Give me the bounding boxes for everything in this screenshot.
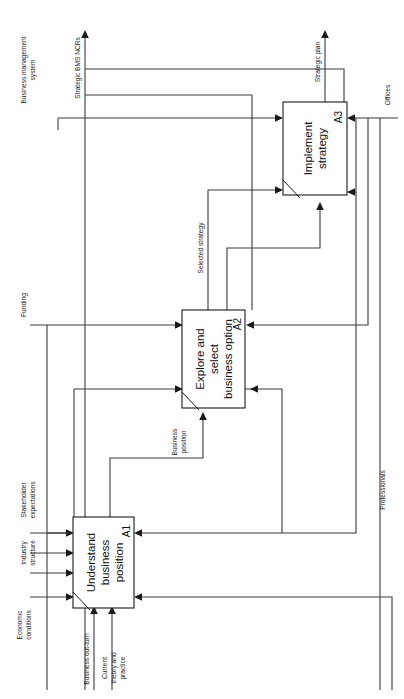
label-business-management-system-line2: system: [29, 59, 37, 80]
arrowhead-bms-to-a3: [275, 114, 283, 122]
process-box-a2[interactable]: Explore and select business option A2: [182, 310, 245, 410]
label-strategic-bms-ncrs: Strategic BMS NCRs: [74, 37, 82, 99]
label-professionals: Professionals: [379, 470, 386, 510]
box-a3-title-line1: Implement: [302, 121, 314, 175]
label-business-out-turn: Business out-turn: [83, 633, 90, 685]
label-current-theory-line2: theory and: [110, 652, 118, 683]
label-selected-strategy: Selected strategy: [197, 222, 205, 274]
label-funding: Funding: [20, 293, 28, 317]
label-business-position-line2: position: [180, 430, 188, 453]
box-a1-title-line3: position: [113, 543, 125, 583]
line-a3-ncr-feedback: [85, 69, 344, 102]
label-stakeholder-expectations-line2: expectations: [29, 481, 37, 519]
label-industry-structure-line1: Industry: [20, 541, 28, 565]
line-offices-to-a1: [139, 192, 356, 533]
idef0-diagram: Implement strategy A3 Explore and select…: [0, 0, 404, 699]
label-strategic-plan: Strategic plan: [314, 42, 322, 83]
box-a2-title-line2: select: [208, 343, 220, 374]
line-a2-feedback-to-a1: [245, 389, 282, 533]
line-business-position: [110, 420, 203, 517]
process-box-a1[interactable]: Understand business position A1: [73, 517, 134, 610]
box-a3-id: A3: [333, 110, 344, 123]
box-a3-title-line2: strategy: [316, 128, 328, 169]
line-offices-branch-a3-lower: [352, 118, 356, 192]
arrowhead-offices-to-a2: [246, 321, 254, 329]
arrowhead-a2-feedback: [250, 385, 258, 393]
box-a1-id: A1: [121, 524, 132, 537]
arrowhead-business-position: [199, 412, 207, 420]
line-a2-to-a3-mechanism: [227, 210, 320, 310]
label-stakeholder-expectations-line1: Stakeholder: [20, 482, 27, 518]
box-a1-title-line1: Understand: [85, 533, 97, 592]
label-business-position-line1: Business: [171, 428, 178, 455]
box-a2-id: A2: [232, 317, 243, 330]
label-offices: Offices: [384, 84, 391, 105]
line-professionals-to-a1: [139, 597, 392, 690]
label-economic-conditions-line1: Economic: [16, 610, 23, 640]
label-current-theory-line3: practice: [119, 656, 127, 679]
label-current-theory-line1: Current: [101, 657, 108, 679]
arrowhead-professionals-to-a1: [134, 593, 142, 601]
diagram-canvas: Implement strategy A3 Explore and select…: [0, 0, 404, 699]
arrowhead-strategic-bms-ncrs: [81, 30, 89, 38]
arrowhead-offices-to-a3: [347, 114, 355, 122]
process-box-a3[interactable]: Implement strategy A3: [283, 102, 347, 198]
line-selected-strategy: [208, 190, 278, 310]
box-a1-title-line2: business: [99, 540, 111, 586]
label-business-management-system-line1: Business management: [20, 36, 28, 103]
arrowhead-a2-a3-mechanism: [316, 202, 324, 210]
arrowhead-selected-strategy: [275, 186, 283, 194]
label-economic-conditions-line2: conditions: [25, 609, 32, 639]
label-industry-structure-line2: structure: [29, 540, 36, 566]
arrowhead-offices-to-a1: [134, 529, 142, 537]
box-a2-title-line1: Explore and: [194, 328, 206, 389]
arrowhead-strategic-plan: [321, 30, 329, 38]
arrowhead-offices-lower-a3: [347, 188, 355, 196]
